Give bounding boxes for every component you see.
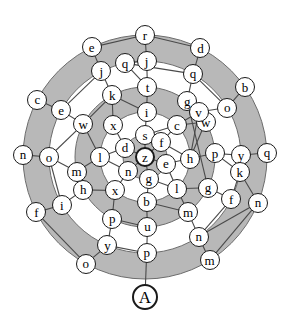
maze-node-h[interactable]: h bbox=[73, 180, 93, 200]
goal-node-A[interactable]: A bbox=[132, 284, 158, 310]
maze-node-n[interactable]: n bbox=[248, 193, 268, 213]
maze-node-p[interactable]: p bbox=[102, 209, 122, 229]
maze-node-c[interactable]: c bbox=[167, 115, 187, 135]
maze-node-e[interactable]: e bbox=[156, 154, 176, 174]
maze-node-g[interactable]: g bbox=[139, 169, 159, 189]
maze-node-d[interactable]: d bbox=[115, 138, 135, 158]
maze-node-v[interactable]: v bbox=[189, 102, 209, 122]
maze-node-c[interactable]: c bbox=[27, 90, 47, 110]
maze-node-b[interactable]: b bbox=[235, 77, 255, 97]
maze-node-i[interactable]: i bbox=[52, 195, 72, 215]
maze-node-r[interactable]: r bbox=[135, 25, 155, 45]
maze-node-l[interactable]: l bbox=[90, 147, 110, 167]
maze-node-o[interactable]: o bbox=[39, 147, 59, 167]
maze-node-b[interactable]: b bbox=[137, 192, 157, 212]
maze-node-k[interactable]: k bbox=[230, 162, 250, 182]
maze-node-q[interactable]: q bbox=[183, 64, 203, 84]
maze-node-z[interactable]: z bbox=[135, 147, 155, 167]
maze-node-n[interactable]: n bbox=[189, 227, 209, 247]
maze-node-p[interactable]: p bbox=[137, 243, 157, 263]
maze-node-m[interactable]: m bbox=[200, 250, 220, 270]
maze-node-q[interactable]: q bbox=[115, 53, 135, 73]
maze-node-l[interactable]: l bbox=[167, 179, 187, 199]
maze-node-j[interactable]: j bbox=[137, 51, 157, 71]
maze-node-h[interactable]: h bbox=[180, 149, 200, 169]
maze-node-i[interactable]: i bbox=[137, 102, 157, 122]
maze-node-o[interactable]: o bbox=[217, 98, 237, 118]
maze-node-n[interactable]: n bbox=[13, 145, 33, 165]
maze-node-o[interactable]: o bbox=[76, 254, 96, 274]
maze-node-q[interactable]: q bbox=[257, 143, 277, 163]
maze-node-m[interactable]: m bbox=[67, 162, 87, 182]
maze-node-e[interactable]: e bbox=[82, 37, 102, 57]
maze-figure: zsfegndichlbxlxtgwpgmuphmwkvjqoyfnpyioej… bbox=[0, 0, 301, 321]
maze-node-g[interactable]: g bbox=[198, 178, 218, 198]
